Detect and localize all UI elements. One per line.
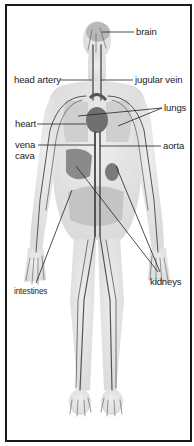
right-foot: [101, 389, 123, 415]
label-lungs: lungs: [164, 103, 186, 113]
liver-organ: [66, 149, 92, 179]
left-foot: [69, 389, 91, 415]
label-intestines: intestines: [14, 286, 47, 296]
kidney-organ: [105, 163, 119, 181]
label-jugular-vein: jugular vein: [135, 75, 182, 85]
label-head-artery: head artery: [14, 75, 61, 85]
circulatory-illustration: [0, 0, 194, 446]
label-vena-cava-line1: vena: [15, 140, 35, 150]
label-kidneys: kidneys: [150, 277, 182, 287]
label-aorta: aorta: [163, 141, 184, 151]
neck: [88, 55, 106, 81]
heart-organ: [86, 107, 108, 133]
label-heart: heart: [15, 119, 36, 129]
label-brain: brain: [136, 27, 157, 37]
label-vena-cava-line2: cava: [15, 151, 35, 161]
